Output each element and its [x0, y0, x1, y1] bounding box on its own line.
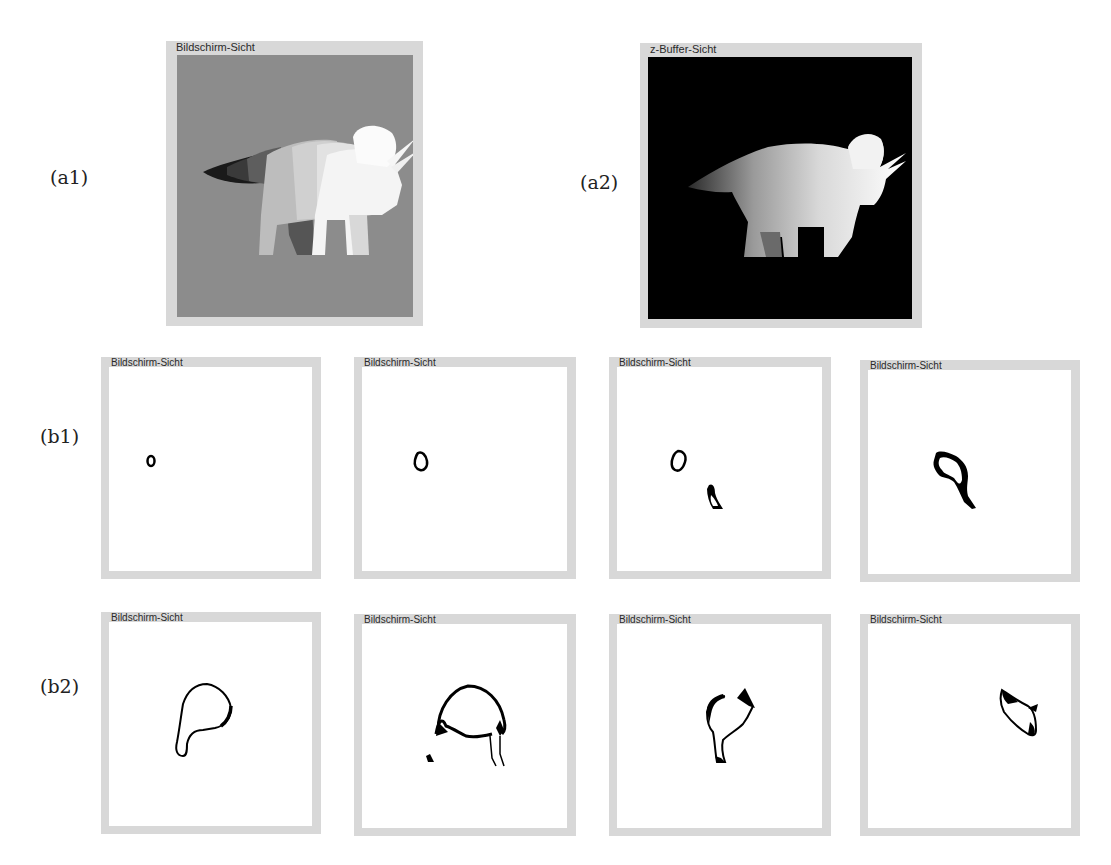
row-label-b1: (b1) [40, 425, 79, 447]
panel-contour-b2-1: Bildschirm-Sicht [101, 612, 321, 834]
contour-image [109, 622, 312, 826]
contour-canvas [109, 622, 312, 826]
panel-contour-b1-3: Bildschirm-Sicht [609, 357, 831, 579]
zbuffer-view-canvas [648, 57, 912, 319]
contour-canvas [362, 367, 567, 571]
contour-image [109, 367, 312, 571]
panel-contour-b1-4: Bildschirm-Sicht [860, 360, 1080, 582]
panel-title: Bildschirm-Sicht [176, 41, 255, 54]
panel-zbuffer-view: z-Buffer-Sicht [640, 43, 922, 328]
screen-view-canvas [177, 55, 413, 317]
contour-canvas [868, 624, 1071, 828]
contour-image [617, 624, 822, 828]
contour-image [362, 367, 567, 571]
contour-image [362, 624, 567, 828]
panel-contour-b1-2: Bildschirm-Sicht [354, 357, 576, 579]
triceratops-shaded-image [177, 55, 413, 317]
row-label-a1: (a1) [50, 166, 88, 188]
contour-canvas [868, 370, 1071, 574]
panel-contour-b1-1: Bildschirm-Sicht [101, 357, 321, 579]
contour-image [617, 367, 822, 571]
row-label-b2: (b2) [40, 675, 79, 697]
contour-canvas [362, 624, 567, 828]
panel-contour-b2-4: Bildschirm-Sicht [860, 614, 1080, 836]
panel-contour-b2-2: Bildschirm-Sicht [354, 614, 576, 836]
contour-image [868, 370, 1071, 574]
triceratops-depth-image [648, 57, 912, 319]
row-label-a2: (a2) [580, 171, 618, 193]
panel-screen-view: Bildschirm-Sicht [166, 41, 423, 326]
panel-contour-b2-3: Bildschirm-Sicht [609, 614, 831, 836]
contour-canvas [617, 367, 822, 571]
contour-canvas [617, 624, 822, 828]
contour-image [868, 624, 1071, 828]
panel-title: z-Buffer-Sicht [650, 43, 716, 56]
contour-canvas [109, 367, 312, 571]
